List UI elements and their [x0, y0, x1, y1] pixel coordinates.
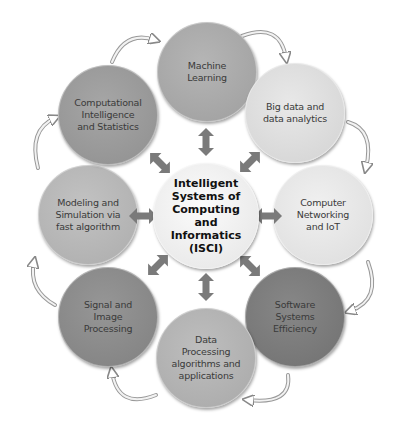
node-center-isci: Intelligent Systems of Computing and Inf… — [153, 163, 259, 269]
double-arrow-icon — [234, 146, 265, 177]
double-arrow-icon — [144, 147, 175, 178]
double-arrow-icon — [198, 128, 214, 156]
isci-diagram: Machine Learning Big data and data analy… — [0, 0, 401, 429]
center-label: Intelligent Systems of Computing and Inf… — [171, 177, 242, 255]
double-arrow-icon — [198, 273, 214, 301]
